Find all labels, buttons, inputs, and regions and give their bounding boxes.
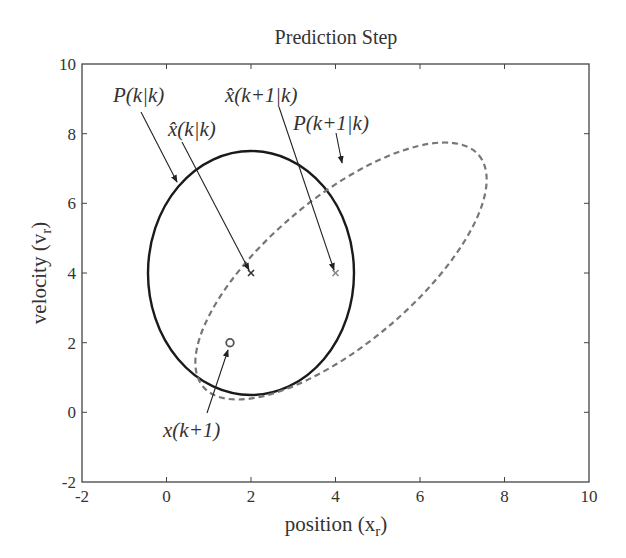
svg-text:8: 8	[68, 125, 77, 144]
svg-text:10: 10	[59, 55, 76, 74]
svg-text:4: 4	[68, 264, 77, 283]
chart-canvas: Prediction Step -2 0 2 4 6 8 10 -2 0 2 4…	[0, 0, 626, 558]
marker-xhat-k1-k	[333, 270, 339, 276]
annotation-p-k1-k: P(k+1|k)	[292, 111, 369, 135]
svg-text:2: 2	[68, 334, 77, 353]
annotation-xhat-k1-k: x̂(k+1|k)	[224, 83, 297, 107]
svg-text:6: 6	[416, 487, 425, 506]
svg-text:0: 0	[68, 403, 77, 422]
svg-text:0: 0	[162, 487, 171, 506]
svg-text:10: 10	[581, 487, 598, 506]
svg-text:6: 6	[68, 194, 77, 213]
annotation-x-k1: x(k+1)	[162, 418, 220, 442]
x-axis-label: position (xr)	[285, 512, 387, 539]
annotation-arrows	[141, 107, 342, 413]
svg-text:4: 4	[331, 487, 340, 506]
y-axis-label: velocity (vr)	[27, 222, 54, 324]
marker-xhat-k-k	[248, 270, 254, 276]
svg-text:2: 2	[247, 487, 256, 506]
annotation-xhat-k-k: x̂(k|k)	[167, 117, 216, 141]
ellipse-p-k1-k	[156, 99, 526, 442]
svg-text:8: 8	[500, 487, 509, 506]
svg-text:-2: -2	[75, 487, 89, 506]
svg-text:-2: -2	[62, 473, 76, 492]
marker-x-k1	[226, 339, 234, 347]
annotation-p-k-k: P(k|k)	[112, 83, 164, 107]
x-tick-labels: -2 0 2 4 6 8 10	[75, 487, 598, 506]
chart-title: Prediction Step	[275, 26, 398, 49]
y-tick-labels: -2 0 2 4 6 8 10	[59, 55, 77, 492]
